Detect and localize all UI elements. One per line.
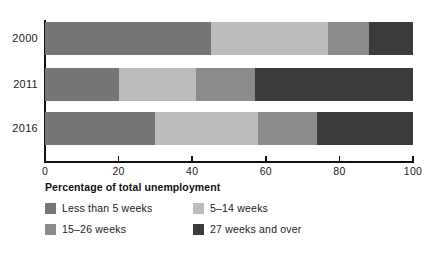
legend-swatch-icon — [193, 203, 204, 214]
x-axis-tick-label: 100 — [404, 165, 422, 177]
legend-label: 5–14 weeks — [210, 203, 268, 214]
legend-swatch-icon — [45, 203, 56, 214]
bar-segment — [328, 22, 368, 55]
bar-segment — [45, 68, 119, 101]
bar-segment — [258, 112, 317, 145]
bar-segment — [211, 22, 329, 55]
bar-segment — [119, 68, 196, 101]
bar-segment — [196, 68, 255, 101]
bar-segment — [317, 112, 413, 145]
bar-segment — [155, 112, 258, 145]
bar-segment — [45, 112, 155, 145]
legend-item: 27 weeks and over — [193, 224, 302, 235]
y-axis-label-2011: 2011 — [0, 78, 38, 90]
bar-row — [45, 22, 413, 55]
bar-row — [45, 68, 413, 101]
x-axis-title: Percentage of total unemployment — [45, 181, 220, 193]
bar-row — [45, 112, 413, 145]
legend-swatch-icon — [45, 224, 56, 235]
legend-item: Less than 5 weeks — [45, 203, 152, 214]
x-axis-tick-label: 40 — [186, 165, 198, 177]
x-axis-tick-label: 20 — [112, 165, 124, 177]
x-axis-tick-label: 60 — [260, 165, 272, 177]
legend-label: 15–26 weeks — [62, 224, 126, 235]
x-axis-tick-label: 80 — [333, 165, 345, 177]
legend-item: 15–26 weeks — [45, 224, 126, 235]
x-axis-line — [44, 161, 414, 163]
bar-segment — [255, 68, 413, 101]
stacked-bar-chart: 020406080100 200020112016 Percentage of … — [0, 0, 430, 257]
bar-segment — [45, 22, 211, 55]
legend-label: 27 weeks and over — [210, 224, 302, 235]
legend-label: Less than 5 weeks — [62, 203, 152, 214]
bar-segment — [369, 22, 413, 55]
x-axis-tick-label: 0 — [42, 165, 48, 177]
legend-item: 5–14 weeks — [193, 203, 268, 214]
y-axis-label-2016: 2016 — [0, 122, 38, 134]
legend-swatch-icon — [193, 224, 204, 235]
plot-area — [45, 22, 413, 161]
y-axis-label-2000: 2000 — [0, 32, 38, 44]
